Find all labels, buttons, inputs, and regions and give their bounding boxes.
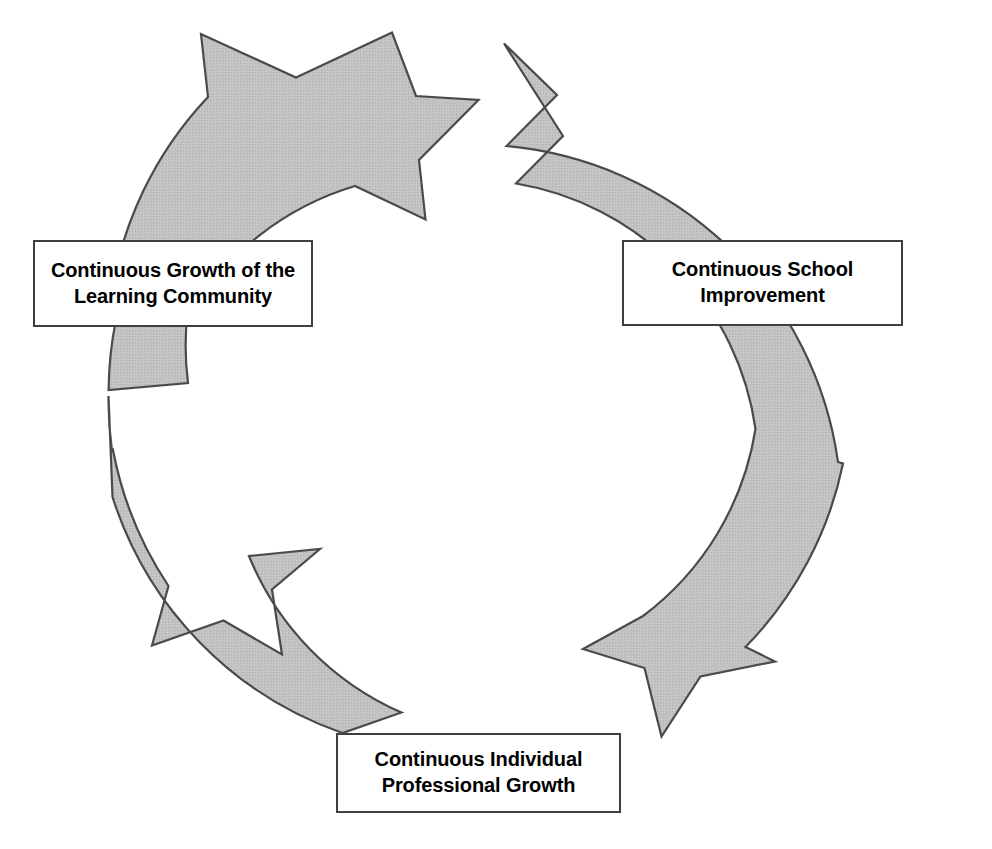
node-continuous-individual-professional-growth[interactable]: Continuous Individual Professional Growt… [336, 733, 621, 813]
arrow-bottom-left [108, 396, 401, 733]
node-label-continuous-school-improvement: Continuous School Improvement [666, 257, 860, 308]
node-label-continuous-growth-learning-community: Continuous Growth of the Learning Commun… [45, 258, 301, 309]
node-label-continuous-individual-professional-growth: Continuous Individual Professional Growt… [369, 747, 589, 798]
node-continuous-school-improvement[interactable]: Continuous School Improvement [622, 240, 903, 326]
node-continuous-growth-learning-community[interactable]: Continuous Growth of the Learning Commun… [33, 240, 313, 327]
cycle-arrows-graphic [0, 0, 992, 849]
arrow-right [504, 44, 843, 737]
cycle-diagram: Continuous Growth of the Learning Commun… [0, 0, 992, 849]
